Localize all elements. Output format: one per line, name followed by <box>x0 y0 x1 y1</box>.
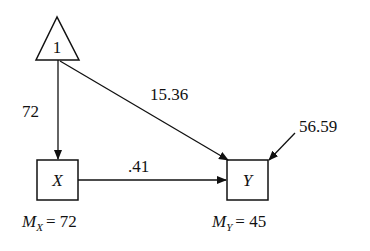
mean-y-symbol: M <box>211 212 227 231</box>
path-label-constant-x: 72 <box>22 102 39 121</box>
path-x-to-y: .41 <box>78 157 226 180</box>
arrow-error-y <box>269 133 295 160</box>
path-label-x-y: .41 <box>128 157 149 176</box>
x-label: X <box>51 171 63 190</box>
y-label: Y <box>243 171 254 190</box>
constant-label: 1 <box>53 38 62 57</box>
mean-x-symbol: M <box>21 212 37 231</box>
path-label-constant-y: 15.36 <box>150 85 188 104</box>
mean-x-value: = 72 <box>46 212 77 231</box>
path-constant-to-x: 72 <box>22 60 58 159</box>
path-constant-to-y: 15.36 <box>60 61 228 160</box>
mean-x-label: MX= 72 <box>21 212 77 233</box>
mean-x-subscript: X <box>35 221 44 233</box>
constant-node: 1 <box>36 17 79 60</box>
mean-y-label: MY= 45 <box>211 212 266 233</box>
x-node: X <box>37 160 78 200</box>
arrow-constant-y <box>60 61 228 160</box>
path-diagram: 1 72 15.36 56.59 X .41 Y MX= 72 MY= 45 <box>0 0 370 251</box>
mean-y-value: = 45 <box>235 212 266 231</box>
y-node: Y <box>227 160 268 200</box>
mean-y-subscript: Y <box>226 221 234 233</box>
path-error-to-y: 56.59 <box>269 117 337 160</box>
path-label-error-y: 56.59 <box>299 117 337 136</box>
